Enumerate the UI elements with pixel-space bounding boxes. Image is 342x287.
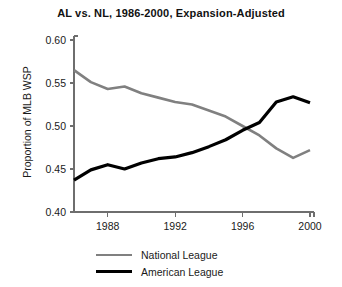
chart-legend: National LeagueAmerican League <box>96 246 326 280</box>
legend-swatch-icon <box>96 270 132 273</box>
legend-item: National League <box>96 246 326 263</box>
axis-lines <box>70 36 314 217</box>
legend-swatch-icon <box>96 254 132 256</box>
plot-area <box>0 0 342 287</box>
series-line-american-league <box>74 97 310 180</box>
legend-label: National League <box>141 249 217 261</box>
chart-figure: AL vs. NL, 1986-2000, Expansion-Adjusted… <box>0 0 342 287</box>
series-line-national-league <box>74 70 310 158</box>
legend-label: American League <box>141 266 223 278</box>
legend-item: American League <box>96 263 326 280</box>
data-series-group <box>74 70 310 180</box>
